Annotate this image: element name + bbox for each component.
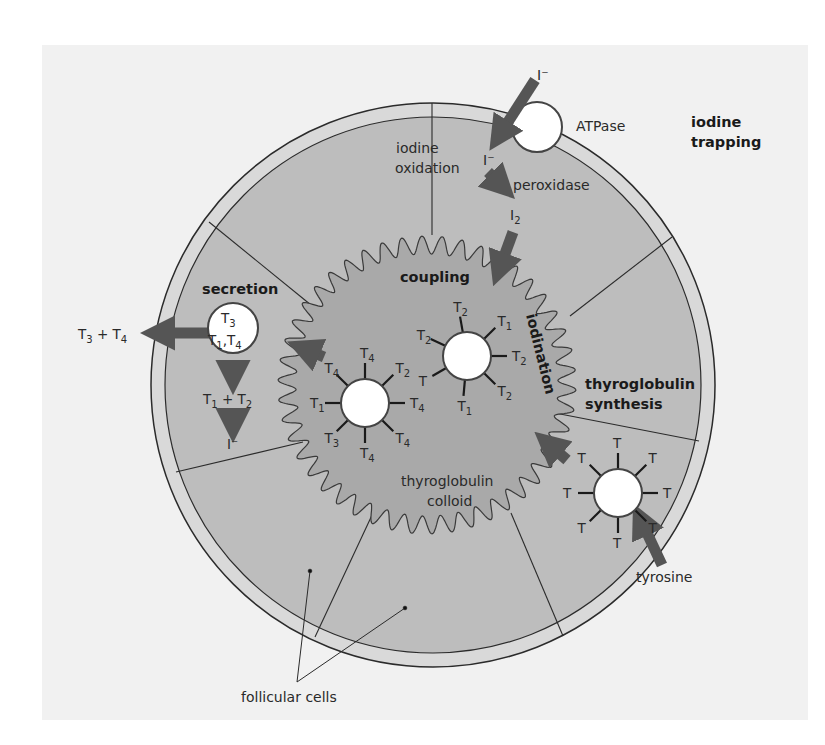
residue-label: T	[612, 435, 622, 451]
residue-label: T	[647, 520, 657, 536]
recycled-iodide-label: I⁻	[227, 436, 238, 452]
residue-label: T	[577, 520, 587, 536]
atpase-label: ATPase	[576, 118, 625, 134]
thyroid-hormone-synthesis-diagram: TTTTTTTT T2T1T2T2T1TT2 T4T2T4T4T4T3T1T4 …	[0, 0, 825, 745]
thyroglobulin-synthesis-label-2: synthesis	[585, 396, 663, 412]
coupling-label: coupling	[400, 269, 470, 285]
iodine-trapping-label-2: trapping	[691, 134, 761, 150]
follicular-cells-label: follicular cells	[241, 689, 337, 705]
colloid-label-2: colloid	[427, 493, 472, 509]
thyroglobulin-core	[341, 379, 389, 427]
thyroglobulin-core	[594, 469, 642, 517]
residue-label: T	[647, 450, 657, 466]
residue-label: T	[562, 485, 572, 501]
thyroglobulin-synthesis-label-1: thyroglobulin	[585, 376, 695, 392]
peroxidase-label: peroxidase	[513, 177, 590, 193]
iodine-oxidation-label-1: iodine	[396, 140, 439, 156]
iodine-oxidation-label-2: oxidation	[395, 160, 460, 176]
secretion-label: secretion	[202, 281, 278, 297]
iodide-inside-label: I⁻	[483, 152, 495, 168]
residue-label: T	[612, 535, 622, 551]
colloid-label-1: thyroglobulin	[401, 473, 493, 489]
residue-label: T	[418, 373, 428, 389]
residue-label: T	[662, 485, 672, 501]
tyrosine-label: tyrosine	[636, 569, 692, 585]
thyroglobulin-core	[443, 332, 491, 380]
iodine-trapping-label-1: iodine	[691, 114, 742, 130]
iodide-outside-label: I⁻	[537, 67, 549, 83]
residue-label: T	[577, 450, 587, 466]
tyrosine-residue-bond	[464, 380, 465, 396]
